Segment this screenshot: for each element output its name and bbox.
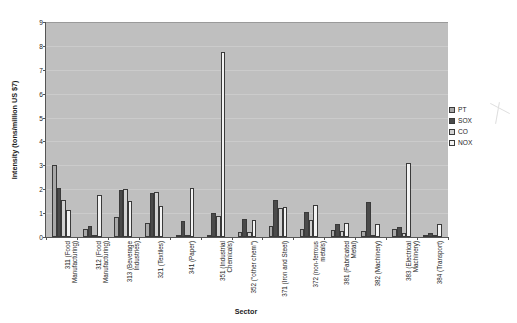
legend-item-sox[interactable]: SOX — [449, 115, 507, 126]
x-axis-tick-label: 311 (Food Manufacturing) — [65, 241, 79, 303]
x-axis-tick-label: 312 (Food Manufacturing) — [96, 241, 110, 303]
x-axis-tick-label: 381 (Fabricated Metal) — [344, 241, 358, 303]
x-axis-labels: 311 (Food Manufacturing)312 (Food Manufa… — [45, 241, 447, 303]
x-axis-tick-label: 352 ("other chem") — [251, 241, 265, 303]
x-axis-tick-label: 383 (Electrical Machinery) — [406, 241, 420, 303]
bar — [283, 207, 288, 237]
bar-group — [417, 22, 448, 237]
bar — [159, 206, 164, 237]
legend-swatch-icon — [449, 118, 455, 124]
x-axis-tick-mark — [77, 237, 78, 240]
x-axis-tick-label: 382 (Machinery) — [375, 241, 389, 303]
legend-swatch-icon — [449, 107, 455, 113]
x-axis-tick-mark — [262, 237, 263, 240]
x-axis-tick-label: 372 (non-ferrous metals) — [313, 241, 327, 303]
bar-group — [201, 22, 232, 237]
bar — [375, 224, 380, 237]
bar — [190, 188, 195, 237]
x-axis-tick-label: 341 (Paper) — [189, 241, 203, 303]
bar — [366, 202, 371, 237]
bar-group — [324, 22, 355, 237]
bar — [437, 224, 442, 237]
legend-label: NOX — [458, 139, 472, 146]
bar-group — [46, 22, 77, 237]
x-axis-tick-mark — [108, 237, 109, 240]
legend-label: CO — [458, 128, 468, 135]
x-axis-tick-mark — [324, 237, 325, 240]
bar-group — [386, 22, 417, 237]
x-axis-tick-mark — [170, 237, 171, 240]
bar — [221, 52, 226, 237]
x-axis-tick-mark — [448, 237, 449, 240]
bar-group — [355, 22, 386, 237]
y-axis-title: Intensity (tons/million US $7) — [8, 25, 20, 235]
x-axis-tick-mark — [232, 237, 233, 240]
legend-label: SOX — [458, 117, 472, 124]
x-axis-tick-mark — [201, 237, 202, 240]
bar-series-container — [46, 22, 448, 237]
bar — [252, 220, 257, 237]
bar-group — [170, 22, 201, 237]
bar — [97, 195, 102, 237]
legend-item-nox[interactable]: NOX — [449, 137, 507, 148]
x-axis-tick-label: 351 (Industrial Chemicals) — [220, 241, 234, 303]
x-axis-tick-label: 321 (Textiles) — [158, 241, 172, 303]
bar — [313, 205, 318, 237]
legend-swatch-icon — [449, 140, 455, 146]
legend-swatch-icon — [449, 129, 455, 135]
x-axis-tick-mark — [139, 237, 140, 240]
bar-chart: Intensity (tons/million US $7) 012345678… — [0, 0, 517, 323]
x-axis-tick-mark — [386, 237, 387, 240]
x-axis-tick-label: 384 (Transport) — [437, 241, 451, 303]
bar — [66, 210, 71, 237]
bar — [344, 223, 349, 237]
x-axis-tick-mark — [417, 237, 418, 240]
bar — [128, 201, 133, 237]
x-axis-tick-mark — [293, 237, 294, 240]
bar-group — [293, 22, 324, 237]
x-axis-tick-mark — [46, 237, 47, 240]
bar-group — [108, 22, 139, 237]
bar-group — [139, 22, 170, 237]
x-axis-tick-label: 371 (Iron and Steel) — [282, 241, 296, 303]
y-axis-title-text: Intensity (tons/million US $7) — [10, 81, 19, 180]
x-axis-tick-mark — [355, 237, 356, 240]
bar — [406, 163, 411, 237]
legend-item-co[interactable]: CO — [449, 126, 507, 137]
legend-label: PT — [458, 106, 466, 113]
x-axis-title: Sector — [45, 307, 447, 316]
x-axis-tick-label: 313 (Beverage Industries) — [127, 241, 141, 303]
bar-group — [232, 22, 263, 237]
bar-group — [262, 22, 293, 237]
bar-group — [77, 22, 108, 237]
plot-area: 0123456789 — [45, 22, 448, 238]
